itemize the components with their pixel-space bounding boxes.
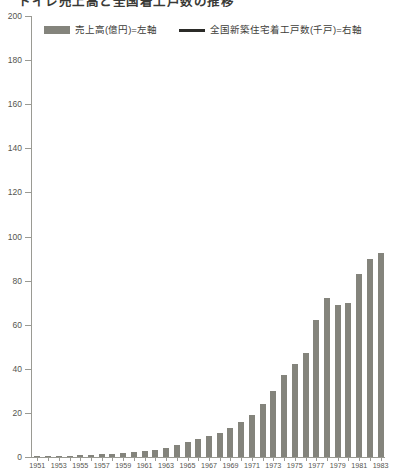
- bar: [249, 415, 255, 457]
- chart-container: トイレ売上高と全国着工戸数の推移 売上高(億円)=左軸 全国新築住宅着工戸数(千…: [0, 0, 393, 474]
- y-axis-tick: [25, 237, 31, 238]
- bar: [99, 454, 105, 457]
- x-axis-label: 1965: [180, 462, 196, 469]
- x-axis-tick: [177, 458, 178, 461]
- x-axis-tick: [155, 458, 156, 461]
- y-axis-label: 200: [0, 12, 22, 21]
- y-axis-label: 80: [0, 277, 22, 286]
- x-axis-label: 1983: [373, 462, 389, 469]
- y-axis-tick: [25, 413, 31, 414]
- bar: [356, 274, 362, 457]
- x-axis-tick: [91, 458, 92, 461]
- x-axis-line: [31, 457, 385, 458]
- bar: [335, 305, 341, 457]
- y-axis-label: 160: [0, 100, 22, 109]
- y-axis-tick: [25, 457, 31, 458]
- x-axis-tick: [284, 458, 285, 461]
- y-axis-tick: [25, 325, 31, 326]
- bar: [45, 456, 51, 457]
- x-axis-label: 1963: [158, 462, 174, 469]
- y-axis-label: 20: [0, 409, 22, 418]
- bar: [77, 455, 83, 457]
- bar: [281, 375, 287, 457]
- bar: [120, 453, 126, 457]
- x-axis-label: 1967: [201, 462, 217, 469]
- y-axis-tick: [25, 281, 31, 282]
- bar: [67, 456, 73, 457]
- x-axis-label: 1973: [265, 462, 281, 469]
- x-axis-tick: [241, 458, 242, 461]
- y-axis-tick: [25, 148, 31, 149]
- x-axis-label: 1971: [244, 462, 260, 469]
- x-axis-tick: [198, 458, 199, 461]
- y-axis-tick: [25, 16, 31, 17]
- y-axis-label: 180: [0, 56, 22, 65]
- bar: [303, 353, 309, 457]
- bar: [206, 436, 212, 457]
- bar: [238, 422, 244, 457]
- bar: [270, 391, 276, 457]
- chart-title: トイレ売上高と全国着工戸数の推移: [18, 0, 378, 7]
- x-axis-label: 1961: [137, 462, 153, 469]
- x-axis-label: 1955: [72, 462, 88, 469]
- bar: [313, 320, 319, 457]
- y-axis-label: 140: [0, 144, 22, 153]
- x-axis-label: 1969: [222, 462, 238, 469]
- y-axis-label: 120: [0, 188, 22, 197]
- bar: [185, 442, 191, 457]
- y-axis-label: 60: [0, 321, 22, 330]
- y-axis-tick: [25, 60, 31, 61]
- x-axis-tick: [263, 458, 264, 461]
- x-axis-label: 1957: [94, 462, 110, 469]
- bar: [34, 456, 40, 457]
- y-axis-tick: [25, 369, 31, 370]
- bar: [142, 451, 148, 457]
- bar: [109, 454, 115, 457]
- x-axis-label: 1953: [51, 462, 67, 469]
- y-axis-label: 100: [0, 233, 22, 242]
- bar-series-sales: [32, 16, 385, 457]
- bar: [292, 364, 298, 457]
- bar: [88, 455, 94, 457]
- x-axis-label: 1975: [287, 462, 303, 469]
- y-axis-label: 40: [0, 365, 22, 374]
- y-axis-tick: [25, 192, 31, 193]
- bar: [174, 445, 180, 457]
- x-axis-label: 1979: [330, 462, 346, 469]
- x-axis-label: 1977: [308, 462, 324, 469]
- x-axis-label: 1959: [115, 462, 131, 469]
- bar: [378, 253, 384, 457]
- x-axis-tick: [134, 458, 135, 461]
- bar: [324, 298, 330, 457]
- x-axis-tick: [306, 458, 307, 461]
- x-axis-tick: [70, 458, 71, 461]
- bar: [163, 448, 169, 457]
- x-axis-label: 1951: [29, 462, 45, 469]
- bar: [367, 259, 373, 457]
- x-axis-tick: [327, 458, 328, 461]
- y-axis-label: 0: [0, 453, 22, 462]
- x-axis-label: 1981: [351, 462, 367, 469]
- bar: [345, 303, 351, 457]
- x-axis-tick: [112, 458, 113, 461]
- bar: [217, 433, 223, 457]
- x-axis-tick: [220, 458, 221, 461]
- x-axis-tick: [348, 458, 349, 461]
- bar: [152, 450, 158, 457]
- bar: [227, 428, 233, 457]
- x-axis-tick: [370, 458, 371, 461]
- bar: [131, 452, 137, 457]
- bar: [56, 456, 62, 457]
- bar: [195, 439, 201, 457]
- y-axis-tick: [25, 104, 31, 105]
- bar: [260, 404, 266, 457]
- x-axis-tick: [48, 458, 49, 461]
